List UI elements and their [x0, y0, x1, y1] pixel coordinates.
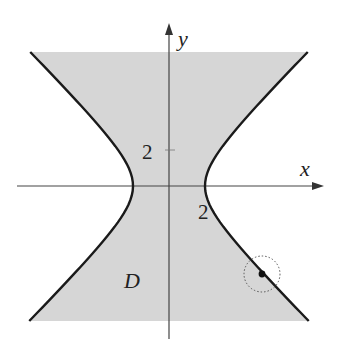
- y-axis-label: y: [176, 26, 188, 51]
- region-diagram: y x 2 2 D: [0, 0, 339, 353]
- y-tick-label: 2: [142, 140, 153, 164]
- x-axis-label: x: [299, 156, 310, 181]
- y-axis-arrow-icon: [165, 23, 173, 35]
- x-vertex-label: 2: [198, 200, 209, 224]
- x-axis-arrow-icon: [312, 182, 324, 190]
- region-label: D: [123, 268, 140, 293]
- boundary-point: [259, 271, 266, 278]
